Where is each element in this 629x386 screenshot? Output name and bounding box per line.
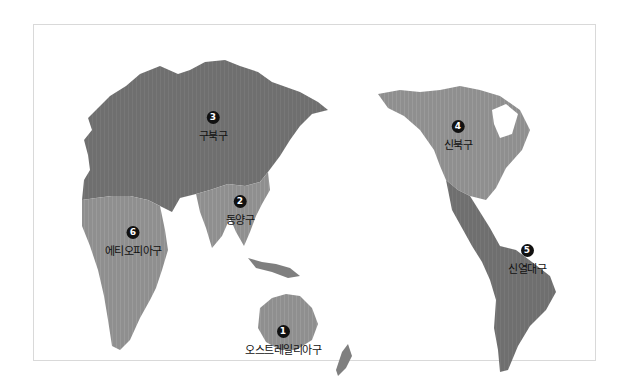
marker-ethiopian: 6 에티오피아구 <box>105 220 162 258</box>
region-label-neotropical: 신열대구 <box>508 260 546 276</box>
marker-palearctic: 3 구북구 <box>199 105 228 143</box>
marker-number: 6 <box>127 226 140 239</box>
marker-number: 1 <box>277 325 290 338</box>
marker-oriental: 2 동양구 <box>226 189 255 227</box>
region-label-oriental: 동양구 <box>226 211 255 227</box>
marker-number: 2 <box>234 195 247 208</box>
region-se-asia-islands <box>248 258 300 278</box>
marker-number: 4 <box>452 120 465 133</box>
new-zealand <box>336 344 352 376</box>
region-neotropical <box>446 180 556 372</box>
region-label-ethiopian: 에티오피아구 <box>105 242 162 258</box>
region-label-palearctic: 구북구 <box>199 127 228 143</box>
marker-neotropical: 5 신열대구 <box>508 238 546 276</box>
marker-number: 3 <box>207 111 220 124</box>
marker-nearctic: 4 신북구 <box>444 114 473 152</box>
region-label-australian: 오스트레일리아구 <box>245 341 321 357</box>
region-label-nearctic: 신북구 <box>444 136 473 152</box>
marker-number: 5 <box>521 244 534 257</box>
marker-australian: 1 오스트레일리아구 <box>245 319 321 357</box>
